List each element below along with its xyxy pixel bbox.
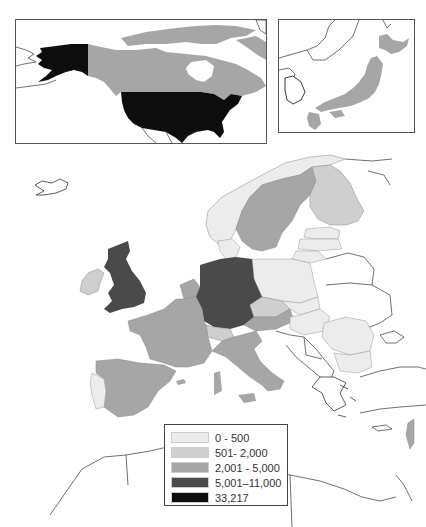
uk-region: [104, 241, 146, 313]
north-america-map: [16, 20, 266, 143]
legend-swatch: [171, 432, 209, 443]
legend-label: 5,001–11,000: [215, 477, 281, 489]
legend-swatch: [171, 447, 209, 458]
legend-item: 5,001–11,000: [171, 475, 287, 490]
map-legend: 0 - 500 501- 2,000 2,001 - 5,000 5,001–1…: [164, 424, 288, 506]
japan-region: [379, 34, 409, 54]
legend-item: 33,217: [171, 490, 287, 505]
legend-label: 33,217: [215, 492, 249, 504]
legend-item: 2,001 - 5,000: [171, 460, 287, 475]
north-america-inset: [15, 19, 267, 144]
legend-item: 0 - 500: [171, 430, 287, 445]
japan-map: [279, 20, 414, 132]
legend-swatch: [171, 462, 209, 473]
legend-swatch: [171, 492, 209, 503]
legend-label: 501- 2,000: [215, 447, 268, 459]
canada-region: [88, 44, 266, 100]
japan-inset: [278, 19, 415, 133]
legend-swatch: [171, 477, 209, 488]
legend-label: 0 - 500: [215, 432, 249, 444]
alaska-region: [36, 44, 88, 82]
legend-item: 501- 2,000: [171, 445, 287, 460]
legend-label: 2,001 - 5,000: [215, 462, 280, 474]
